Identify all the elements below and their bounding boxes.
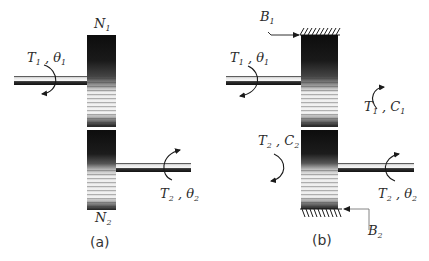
shaft-2 — [116, 163, 191, 172]
caption-a: (a) — [90, 234, 110, 250]
shaft-1 — [14, 76, 87, 85]
gear-n2 — [87, 130, 116, 210]
ground-label-b1: B1 — [259, 9, 275, 26]
gear-label-n1: N1 — [93, 16, 110, 33]
shaft-b2-label: T2 , θ2 — [378, 186, 417, 203]
reaction-c1-label: T1 , C1 — [364, 99, 405, 116]
gear-label-n2: N2 — [94, 210, 111, 227]
leader-b1-tail — [268, 32, 271, 35]
shaft-b1 — [226, 76, 301, 85]
ground-b1-hatch — [300, 28, 340, 35]
panel-b: B1 B2 T1 , θ1 T2 , θ2 T1 , C1 T2 , C2 (b… — [226, 9, 417, 248]
shaft-1-label: T1 , θ1 — [27, 50, 66, 67]
ground-b2-hatch — [300, 209, 342, 217]
ground-label-b2: B2 — [367, 223, 383, 240]
gear-b-top — [301, 35, 338, 127]
reaction-arrow-c2-icon — [271, 154, 284, 181]
leader-b2-icon — [344, 209, 369, 230]
gear-b-bottom — [301, 130, 338, 209]
caption-b: (b) — [312, 232, 332, 248]
shaft-2-label: T2 , θ2 — [160, 186, 199, 203]
reaction-c2-label: T2 , C2 — [258, 133, 299, 150]
panel-a: N1 N2 T1 , θ1 T2 , θ2 (a) — [14, 16, 199, 250]
shaft-b2 — [338, 163, 414, 172]
gear-train-figure: N1 N2 T1 , θ1 T2 , θ2 (a) — [0, 0, 429, 261]
shaft-b1-label: T1 , θ1 — [230, 50, 269, 67]
gear-n1 — [87, 35, 116, 127]
